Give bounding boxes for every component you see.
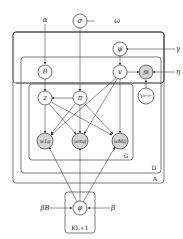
edge-phi-w1g (49, 147, 77, 202)
edge-phi-wMg (83, 147, 115, 202)
svg-text:fB: fB (142, 69, 149, 76)
svg-text:σ: σ (78, 17, 83, 25)
edge-v-wmg (84, 79, 117, 134)
node-wmg: wmg (72, 133, 88, 149)
gamma-label: γ (176, 45, 181, 53)
node-sigma: σ (73, 14, 87, 28)
svg-text:wMg: wMg (114, 138, 127, 145)
plate-KL-label: KL+1 (71, 224, 88, 231)
node-psi: ψ (113, 42, 127, 56)
edge-z-wMg (51, 102, 112, 135)
eta-label: η (176, 68, 181, 76)
betaB-label: βB (39, 204, 49, 212)
svg-text:φ: φ (78, 204, 83, 212)
svg-text:wmg: wmg (74, 138, 86, 145)
svg-text:π: π (77, 94, 83, 102)
node-v: v (113, 65, 127, 79)
svg-text:Vᵖʳᶦᵒʳ: Vᵖʳᶦᵒʳ (140, 93, 152, 99)
node-pi: π (73, 91, 87, 105)
node-theta: θ (38, 65, 52, 79)
svg-text:z: z (42, 94, 47, 102)
alpha-label: α (43, 16, 48, 24)
node-wMg: wMg (112, 133, 128, 149)
svg-text:w1g: w1g (40, 138, 51, 145)
svg-text:ψ: ψ (117, 45, 123, 53)
plate-A-label: A (152, 175, 158, 182)
graphical-model: A D G KL+1 α ω γ η βB β σ ψ θ (0, 0, 183, 239)
node-phi: φ (73, 201, 87, 215)
node-w1g: w1g (37, 133, 53, 149)
node-fB: fB (139, 65, 153, 79)
svg-text:v: v (118, 68, 122, 76)
plate-D-label: D (152, 164, 157, 171)
node-z: z (38, 91, 52, 105)
beta-label: β (110, 204, 115, 212)
plate-G-label: G (124, 152, 129, 159)
omega-label: ω (114, 17, 120, 25)
node-vprior: Vᵖʳᶦᵒʳ (138, 88, 154, 104)
